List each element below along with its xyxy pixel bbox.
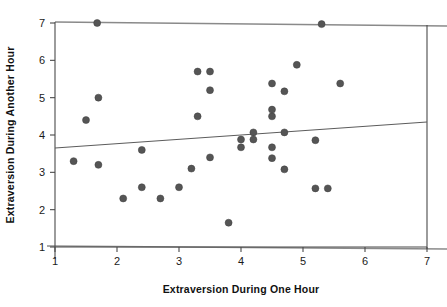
data-points-layer (70, 20, 344, 227)
data-point (318, 21, 325, 28)
y-tick-label: 5 (39, 92, 45, 104)
data-point (207, 68, 214, 75)
data-point (269, 113, 276, 120)
y-axis-ticks: 1234567 (39, 17, 55, 253)
x-tick-label: 6 (362, 255, 368, 267)
data-point (269, 155, 276, 162)
y-tick-label: 6 (39, 54, 45, 66)
x-tick-label: 2 (114, 255, 120, 267)
scatter-plot-figure: 1234567 1234567 Extraversion During One … (0, 0, 447, 307)
data-point (95, 94, 102, 101)
data-point (269, 106, 276, 113)
plot-frame (47, 22, 447, 259)
data-point (312, 185, 319, 192)
plot-top-border (55, 22, 447, 26)
data-point (157, 195, 164, 202)
data-point (95, 161, 102, 168)
data-point (188, 165, 195, 172)
y-axis-title: Extraversion During Another Hour (4, 47, 16, 224)
data-point (324, 185, 331, 192)
data-point (94, 20, 101, 27)
y-tick-label: 1 (39, 241, 45, 253)
data-point (70, 158, 77, 165)
data-point (138, 146, 145, 153)
x-tick-label: 1 (52, 255, 58, 267)
data-point (176, 184, 183, 191)
data-point (293, 61, 300, 68)
data-point (269, 80, 276, 87)
data-point (194, 113, 201, 120)
y-tick-label: 4 (39, 129, 45, 141)
x-tick-label: 4 (238, 255, 244, 267)
x-axis-ticks: 1234567 (52, 247, 430, 267)
y-tick-label: 2 (39, 204, 45, 216)
plot-canvas: 1234567 1234567 Extraversion During One … (0, 0, 447, 307)
data-point (138, 184, 145, 191)
data-point (207, 154, 214, 161)
y-tick-label: 3 (39, 166, 45, 178)
x-axis-title: Extraversion During One Hour (163, 283, 320, 295)
data-point (238, 136, 245, 143)
data-point (238, 144, 245, 151)
data-point (120, 195, 127, 202)
y-tick-label: 7 (39, 17, 45, 29)
data-point (269, 144, 276, 151)
data-point (83, 117, 90, 124)
data-point (194, 68, 201, 75)
data-point (250, 129, 257, 136)
x-tick-label: 7 (424, 255, 430, 267)
x-tick-label: 5 (300, 255, 306, 267)
data-point (281, 88, 288, 95)
data-point (281, 129, 288, 136)
data-point (312, 137, 319, 144)
x-tick-label: 3 (176, 255, 182, 267)
data-point (207, 87, 214, 94)
data-point (281, 166, 288, 173)
data-point (250, 136, 257, 143)
data-point (225, 219, 232, 226)
data-point (337, 80, 344, 87)
